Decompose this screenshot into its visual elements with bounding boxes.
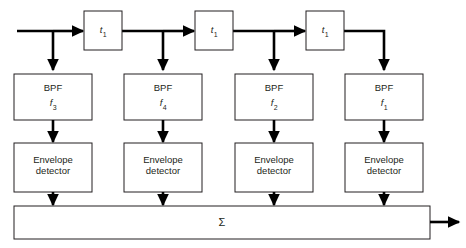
summer-bar (14, 206, 430, 239)
bpf-box-2 (124, 74, 202, 120)
bpf-box-3 (235, 74, 313, 120)
delay-block-2 (195, 11, 233, 50)
detector-box-2 (124, 143, 202, 192)
delay-block-1 (84, 11, 122, 50)
detector-box-4 (345, 143, 423, 192)
block-diagram: t1 t1 t1 BPF f3 BPF f4 BPF f2 BPF f1 Env… (0, 0, 466, 248)
detector-box-1 (14, 143, 92, 192)
bpf-box-4 (345, 74, 423, 120)
detector-box-3 (235, 143, 313, 192)
diagram-canvas (0, 0, 466, 248)
delay-block-3 (306, 11, 344, 50)
bpf-box-1 (14, 74, 92, 120)
wire-delay3-to-bpf4 (344, 31, 384, 70)
